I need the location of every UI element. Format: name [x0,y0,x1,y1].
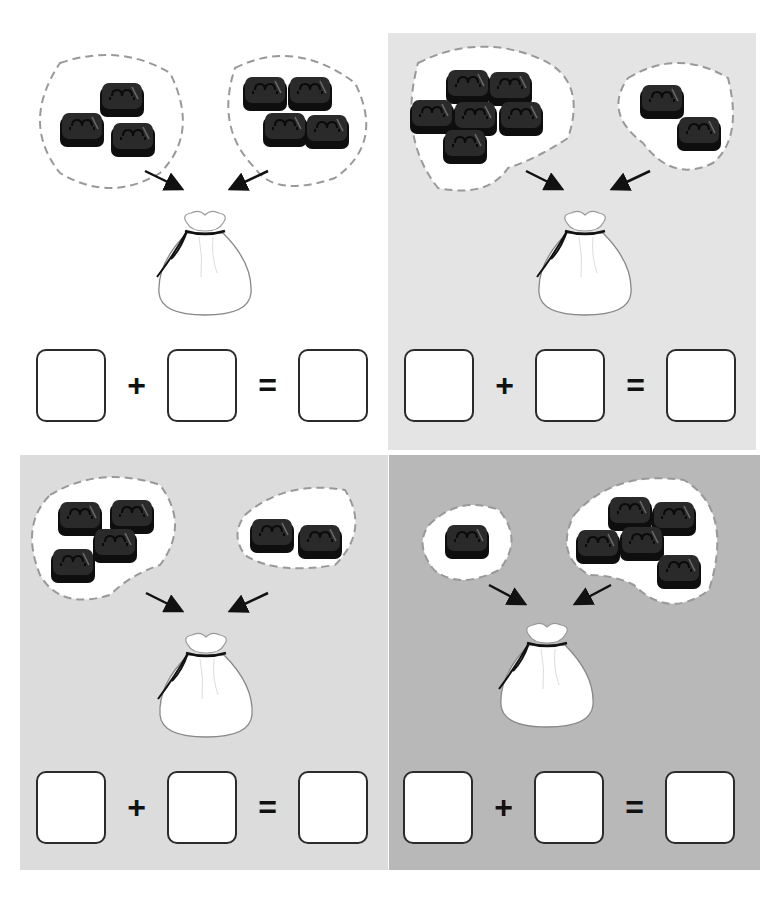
candy-icon [499,102,543,136]
candy-icon [608,497,652,531]
equation: + = [403,771,735,844]
plus-sign: + [473,771,534,844]
candy-icon [677,117,721,151]
sum-box[interactable] [298,771,368,844]
equation: + = [36,349,368,422]
arrow-icon [526,171,560,188]
candy-icon [410,100,454,134]
candy-icon [305,115,349,149]
problem-panel-bottom-right: + = [389,455,760,870]
plus-sign: + [106,349,167,422]
drawstring-bag-icon [499,623,593,727]
candy-icon [445,525,489,559]
addend1-box[interactable] [36,771,106,844]
arrow-icon [146,593,180,610]
candy-icon [263,113,307,147]
equals-sign: = [237,349,298,422]
drawstring-bag-icon [157,211,251,315]
arrow-icon [489,585,523,603]
equals-sign: = [604,771,665,844]
equals-sign: = [605,349,666,422]
candy-icon [100,83,144,117]
arrow-icon [577,585,611,603]
addend2-box[interactable] [167,349,237,422]
arrow-icon [232,171,268,188]
plus-sign: + [474,349,535,422]
candy-icon [243,77,287,111]
plus-sign: + [106,771,167,844]
candy-icon [488,72,532,106]
candy-icon [640,85,684,119]
addend2-box[interactable] [167,771,237,844]
problem-panel-bottom-left: + = [20,455,388,870]
candy-icon [446,70,490,104]
candy-icon [110,500,154,534]
illustration [389,455,760,755]
candy-icon [250,519,294,553]
candy-icon [51,549,95,583]
candy-icon [58,502,102,536]
equals-sign: = [237,771,298,844]
illustration [388,33,756,333]
addend1-box[interactable] [403,771,473,844]
sum-box[interactable] [666,349,736,422]
illustration [20,33,388,333]
candy-icon [298,525,342,559]
addend1-box[interactable] [404,349,474,422]
arrow-icon [145,171,180,188]
candy-icon [60,113,104,147]
candy-icon [443,130,487,164]
candy-icon [93,529,137,563]
problem-panel-top-right: + = [388,33,756,450]
arrow-icon [232,593,268,610]
sum-box[interactable] [665,771,735,844]
candy-icon [576,530,620,564]
candy-icon [111,123,155,157]
sum-box[interactable] [298,349,368,422]
equation: + = [36,771,368,844]
equation: + = [404,349,736,422]
addend2-box[interactable] [535,349,605,422]
candy-icon [288,77,332,111]
addend1-box[interactable] [36,349,106,422]
addend2-box[interactable] [534,771,604,844]
candy-icon [657,555,701,589]
drawstring-bag-icon [537,211,631,315]
problem-panel-top-left: + = [20,33,388,450]
candy-icon [620,527,664,561]
drawstring-bag-icon [158,633,252,737]
arrow-icon [614,171,650,188]
illustration [20,455,388,755]
